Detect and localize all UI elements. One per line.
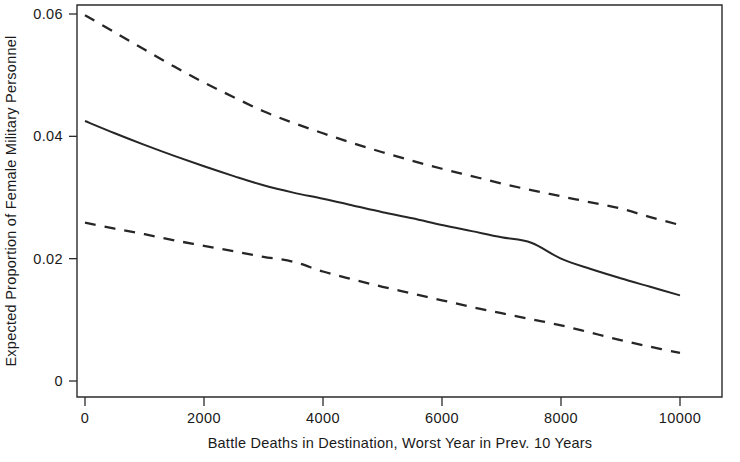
x-tick-label: 2000 [187,410,221,426]
chart-canvas: 00.020.040.06 0200040006000800010000 Bat… [0,0,740,462]
chart-figure: 00.020.040.06 0200040006000800010000 Bat… [0,0,740,462]
x-tick-label: 10000 [659,410,701,426]
x-tick-label: 8000 [544,410,578,426]
y-tick-label: 0.06 [33,6,63,22]
x-tick-label: 6000 [425,410,459,426]
series-line [85,15,680,225]
x-axis-title: Battle Deaths in Destination, Worst Year… [208,435,593,451]
plot-frame [77,5,722,397]
y-axis-title: Expected Proportion of Female Military P… [3,35,19,366]
y-tick-label: 0 [55,373,63,389]
y-tick-label: 0.02 [33,251,63,267]
data-series-group [85,15,680,353]
x-axis-ticks: 0200040006000800010000 [81,397,701,426]
series-line [85,223,680,353]
x-tick-label: 0 [81,410,89,426]
y-tick-label: 0.04 [33,128,63,144]
series-line [85,121,680,295]
y-axis-ticks: 00.020.040.06 [33,6,77,389]
x-tick-label: 4000 [306,410,340,426]
